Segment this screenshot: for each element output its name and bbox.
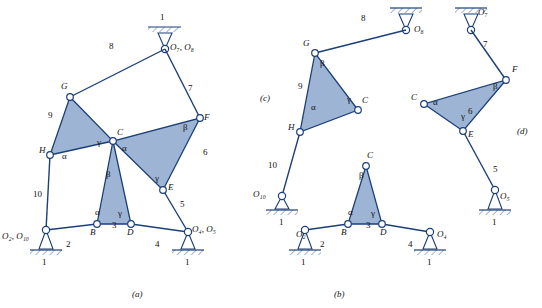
label-joint-E-d: E [468, 130, 474, 139]
label-link-4-b: 4 [408, 240, 413, 249]
label-link-2-a: 2 [66, 240, 71, 249]
label-beta-BCD-a: β [106, 170, 111, 179]
label-gamma-CEF-a: γ [155, 174, 159, 183]
caption-d: (d) [517, 127, 528, 136]
label-frame-1-c: 1 [279, 218, 284, 227]
label-link-5-a: 5 [180, 200, 185, 209]
link-10-c [282, 132, 300, 196]
caption-c: (c) [260, 94, 270, 103]
label-joint-C-b: C [367, 151, 373, 160]
label-beta-c: β [320, 59, 325, 68]
joint-G-a [67, 94, 74, 101]
label-joint-B-b: B [341, 228, 347, 237]
label-frame-1-b-right: 1 [427, 258, 432, 267]
label-joint-H-c: H [288, 123, 295, 132]
joint-C-d [421, 101, 428, 108]
label-gamma-GHC-a: γ [97, 138, 101, 147]
label-ground-O2-b: O₂ [296, 230, 306, 239]
label-joint-F-a: F [204, 113, 210, 122]
label-joint-D-a: D [127, 228, 134, 237]
joint-G-c [312, 50, 319, 57]
link-10-a [46, 155, 50, 230]
label-ground-O7-O8-a: O₇, O₈ [170, 43, 194, 52]
label-beta-d: β [493, 82, 498, 91]
link-4-a [131, 224, 188, 232]
link-7-a [165, 49, 200, 118]
label-alpha-CEF-a: α [122, 144, 127, 153]
label-link-7-d: 7 [483, 40, 488, 49]
label-ground-O4-b: O₄ [437, 230, 447, 239]
link-8-a [70, 49, 165, 97]
label-link-6-a: 6 [203, 148, 208, 157]
panel-c [266, 8, 422, 215]
label-frame-1-a-top: 1 [160, 13, 165, 22]
label-link-9-a: 9 [48, 111, 53, 120]
label-gamma-BCD-a: γ [118, 209, 122, 218]
link-8-c [315, 30, 406, 53]
ground-c-bottom [266, 192, 298, 215]
joint-C-b [363, 163, 370, 170]
label-alpha-c: α [311, 103, 316, 112]
label-ground-O7-d: O₇ [478, 8, 488, 17]
joint-E-a [160, 187, 167, 194]
caption-a: (a) [132, 290, 143, 299]
panel-d [421, 8, 511, 215]
label-link-10-c: 10 [268, 161, 277, 170]
link-4-b [382, 224, 430, 232]
label-link-9-c: 9 [298, 82, 303, 91]
label-gamma-d: γ [461, 112, 465, 121]
label-joint-B-a: B [90, 228, 96, 237]
label-joint-C-d: C [411, 93, 417, 102]
label-ground-O8-c: O₈ [414, 25, 424, 34]
link-9-triangle-a [50, 97, 113, 155]
panel-b [289, 163, 446, 255]
label-frame-1-a-left: 1 [42, 258, 47, 267]
joint-H-c [297, 129, 304, 136]
label-link-7-a: 7 [188, 84, 193, 93]
label-link-10-a: 10 [33, 190, 42, 199]
joint-F-a [197, 115, 204, 122]
joint-C-a [110, 138, 117, 145]
label-gamma-c: γ [347, 95, 351, 104]
label-joint-G-c: G [303, 39, 310, 48]
link-5-d [463, 131, 495, 190]
label-alpha-b: α [348, 208, 353, 217]
label-link-2-b: 2 [320, 240, 325, 249]
label-link-8-c: 8 [361, 14, 366, 23]
label-frame-1-a-right: 1 [185, 258, 190, 267]
label-ground-O10-c: O₁₀ [253, 190, 266, 199]
label-joint-H-a: H [39, 146, 46, 155]
link-9-triangle-c [300, 53, 358, 132]
label-link-3-a: 3 [112, 221, 117, 230]
joint-C-c [355, 107, 362, 114]
label-link-3-b: 3 [366, 221, 371, 230]
label-link-6-d: 6 [468, 107, 473, 116]
panel-a [30, 27, 204, 255]
ground-a-left [30, 226, 62, 255]
label-joint-E-a: E [168, 183, 174, 192]
link-3-triangle-b [348, 166, 382, 224]
label-frame-1-d: 1 [492, 218, 497, 227]
label-joint-F-d: F [512, 65, 518, 74]
label-link-5-d: 5 [493, 165, 498, 174]
label-joint-G-a: G [61, 82, 68, 91]
label-ground-O4-O5-a: O₄, O₅ [192, 225, 216, 234]
label-joint-C-a: C [117, 128, 123, 137]
label-gamma-b: γ [371, 209, 375, 218]
label-joint-D-b: D [380, 228, 387, 237]
caption-b: (b) [334, 290, 345, 299]
label-ground-O2-O10-a: O₂, O₁₀ [2, 232, 29, 241]
label-frame-1-b-left: 1 [301, 258, 306, 267]
label-alpha-d: α [433, 98, 438, 107]
label-link-8-a: 8 [109, 42, 114, 51]
joint-E-d [460, 128, 467, 135]
label-beta-b: β [359, 171, 364, 180]
label-alpha-BCD-a: α [95, 208, 100, 217]
figure-canvas: G C F H E B D O₇, O₈ O₂, O₁₀ O₄, O₅ 8 7 … [0, 0, 542, 308]
mechanism-diagram [0, 0, 542, 308]
label-alpha-GHC-a: α [62, 152, 67, 161]
link-5-a [163, 190, 188, 232]
joint-F-d [503, 77, 510, 84]
joint-H-a [47, 152, 54, 159]
label-link-4-a: 4 [155, 240, 160, 249]
